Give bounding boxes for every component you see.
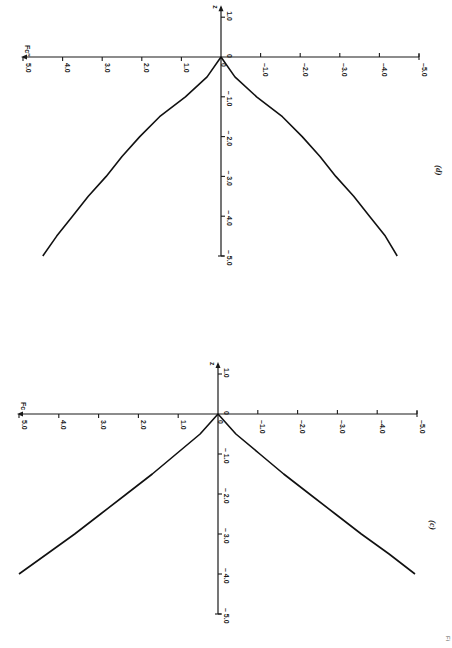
- figure-canvas: 5.04.03.02.01.00–1.0–2.0–3.0–4.0–5.01.00…: [0, 0, 452, 648]
- f-tick-label: 4.0: [64, 63, 71, 73]
- z-axis-title: z: [212, 5, 219, 9]
- curve-upper-branch: [43, 57, 221, 256]
- z-tick-label: – 3.0: [226, 170, 233, 186]
- f-axis-title: Fc″: [24, 45, 31, 57]
- f-tick-label: 5.0: [25, 63, 32, 73]
- plot-c: 5.04.03.02.01.00–1.0–2.0–3.0–4.0–5.01.00…: [17, 362, 438, 624]
- f-tick-label: –3.0: [341, 63, 348, 77]
- z-tick-label: – 2.0: [226, 131, 233, 147]
- z-axis-title: z: [209, 362, 216, 366]
- f-tick-label: –2.0: [302, 63, 309, 77]
- z-tick-label: – 5.0: [226, 250, 233, 266]
- curve-upper-branch: [19, 414, 218, 574]
- f-tick-label: 4.0: [60, 420, 67, 430]
- z-tick-label: 1.0: [223, 368, 230, 378]
- f-tick-label: –3.0: [339, 420, 346, 434]
- f-tick-label: 5.0: [21, 420, 28, 430]
- f-tick-label: 0: [217, 420, 224, 424]
- f-tick-label: –1.0: [259, 420, 266, 434]
- z-tick-label: 0: [226, 54, 233, 58]
- z-tick-label: – 4.0: [226, 210, 233, 226]
- f-axis-arrow-icon: [17, 412, 23, 417]
- curve-lower-branch: [221, 57, 397, 256]
- f-tick-label: –5.0: [421, 63, 428, 77]
- panel-label: (c): [428, 520, 438, 530]
- figure-caption-fragment: Fi: [445, 636, 451, 641]
- z-tick-label: – 1.0: [223, 448, 230, 464]
- curve-lower-branch: [218, 414, 415, 574]
- f-tick-label: –4.0: [379, 420, 386, 434]
- z-tick-label: 1.0: [226, 11, 233, 21]
- z-tick-label: – 4.0: [223, 568, 230, 584]
- f-tick-label: –2.0: [299, 420, 306, 434]
- f-tick-label: 3.0: [104, 63, 111, 73]
- z-tick-label: – 1.0: [226, 91, 233, 107]
- f-tick-label: 2.0: [140, 420, 147, 430]
- f-axis-title: Fc: [20, 402, 27, 410]
- f-tick-label: 1.0: [180, 420, 187, 430]
- panel-label: (d): [434, 165, 444, 176]
- z-tick-label: – 5.0: [223, 608, 230, 624]
- f-tick-label: –4.0: [381, 63, 388, 77]
- f-tick-label: 2.0: [143, 63, 150, 73]
- z-tick-label: – 2.0: [223, 488, 230, 504]
- f-tick-label: –1.0: [262, 63, 269, 77]
- z-tick-label: – 3.0: [223, 528, 230, 544]
- plot-d: 5.04.03.02.01.00–1.0–2.0–3.0–4.0–5.01.00…: [21, 5, 444, 265]
- f-tick-label: 1.0: [183, 63, 190, 73]
- z-tick-label: 0: [223, 411, 230, 415]
- f-tick-label: 3.0: [100, 420, 107, 430]
- f-tick-label: –5.0: [419, 420, 426, 434]
